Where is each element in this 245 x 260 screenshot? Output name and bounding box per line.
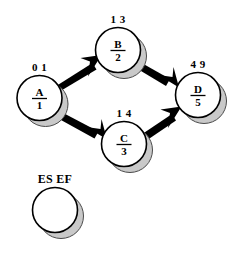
legend-es-ef-label: ES EF bbox=[38, 172, 73, 186]
edge-c-to-d bbox=[143, 107, 182, 141]
node-c-duration: 3 bbox=[121, 145, 127, 157]
node-b-duration: 2 bbox=[115, 51, 121, 63]
node-d-times: 4 9 bbox=[190, 58, 205, 70]
node-b-times: 1 3 bbox=[110, 13, 125, 25]
node-d-duration: 5 bbox=[195, 96, 201, 108]
node-d[interactable]: D 5 4 9 bbox=[176, 58, 227, 124]
node-a[interactable]: A 1 0 1 bbox=[17, 61, 68, 127]
node-c[interactable]: C 3 1 4 bbox=[102, 107, 153, 173]
node-a-id: A bbox=[36, 86, 44, 98]
node-a-times: 0 1 bbox=[32, 61, 47, 73]
node-c-times: 1 4 bbox=[116, 107, 131, 119]
legend-key-node: ES EF bbox=[33, 172, 84, 239]
diagram-canvas: A 1 0 1 B 2 1 3 C 3 1 4 D 5 bbox=[0, 0, 245, 260]
node-b-id: B bbox=[114, 38, 122, 50]
legend-node-circle bbox=[33, 188, 78, 233]
node-a-duration: 1 bbox=[37, 99, 43, 111]
node-c-id: C bbox=[120, 132, 128, 144]
node-d-id: D bbox=[194, 83, 202, 95]
edge-a-to-b bbox=[57, 55, 102, 91]
network-diagram: A 1 0 1 B 2 1 3 C 3 1 4 D 5 bbox=[0, 0, 245, 260]
node-b[interactable]: B 2 1 3 bbox=[96, 13, 147, 79]
